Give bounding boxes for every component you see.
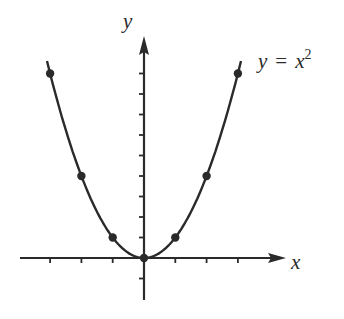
data-point — [234, 69, 242, 77]
parabola-diagram: y x y=x2 — [0, 0, 344, 319]
data-point — [140, 254, 148, 262]
equation-label: y=x2 — [256, 47, 312, 73]
axes — [20, 36, 286, 300]
data-point — [171, 233, 179, 241]
y-axis-label: y — [121, 9, 133, 33]
data-point — [77, 172, 85, 180]
data-point — [109, 233, 117, 241]
x-axis-label: x — [290, 250, 301, 274]
data-point — [202, 172, 210, 180]
data-point — [46, 69, 54, 77]
